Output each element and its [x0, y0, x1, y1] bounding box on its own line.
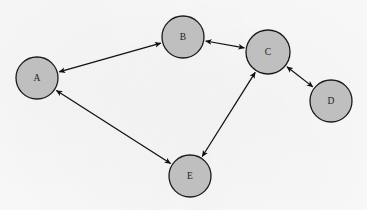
- edge-c-d: [287, 67, 313, 87]
- edge-b-c: [206, 41, 245, 48]
- edge-a-b: [59, 43, 161, 72]
- node-label-d: D: [328, 96, 335, 106]
- node-label-c: C: [265, 47, 271, 57]
- node-b[interactable]: B: [162, 16, 204, 58]
- node-d[interactable]: D: [310, 80, 352, 122]
- node-group: ABCDE: [16, 16, 352, 197]
- node-a[interactable]: A: [16, 57, 58, 99]
- graph-svg: ABCDE: [0, 0, 367, 210]
- node-e[interactable]: E: [169, 155, 211, 197]
- node-label-e: E: [187, 171, 193, 181]
- edge-a-e: [56, 90, 170, 163]
- node-label-a: A: [34, 73, 41, 83]
- node-c[interactable]: C: [246, 30, 290, 74]
- diagram-canvas: ABCDE: [0, 0, 367, 210]
- node-label-b: B: [180, 32, 186, 42]
- edge-c-e: [202, 72, 255, 156]
